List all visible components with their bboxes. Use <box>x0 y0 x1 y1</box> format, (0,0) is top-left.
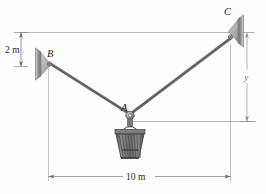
dimension-2m-label: 2 m <box>5 45 20 55</box>
ring-at-A-hole <box>128 114 131 117</box>
dimension-10m: 10 m <box>49 169 231 184</box>
bracket-B-wall-plate <box>36 48 42 80</box>
basket-assembly: A <box>115 102 145 158</box>
point-label-A: A <box>120 102 128 113</box>
cable-BA <box>50 64 129 114</box>
cable-AC <box>131 38 231 114</box>
figure-container: 2 m y 10 m <box>0 0 266 194</box>
dimension-y-label: y <box>243 72 248 82</box>
bracket-C-pin-hole <box>230 36 232 38</box>
cable-group <box>50 38 231 114</box>
mechanics-figure-svg: 2 m y 10 m <box>0 0 266 194</box>
basket-hanger-stem <box>128 119 133 127</box>
bracket-B-pin-hole <box>49 63 51 65</box>
basket-rim <box>115 130 145 135</box>
dimension-10m-label: 10 m <box>126 172 146 182</box>
point-label-B: B <box>47 48 54 59</box>
basket-body <box>116 134 144 158</box>
bracket-B: B <box>36 48 55 80</box>
bracket-C-wall-plate <box>238 15 244 47</box>
point-label-C: C <box>224 6 232 17</box>
dimension-2m: 2 m <box>5 33 28 67</box>
